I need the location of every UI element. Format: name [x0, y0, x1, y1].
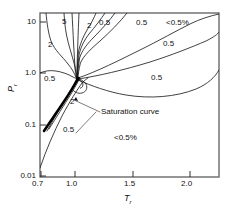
x-axis-title: Tr: [124, 194, 132, 205]
y-axis-title: Pr: [6, 92, 14, 104]
region-label-less-than-05-lower: <0.5%: [114, 134, 137, 142]
y-tick-label-1: 1.0: [6, 69, 36, 77]
y-axis-title-sub: r: [12, 84, 18, 86]
x-tick-label-1.0: 1.0: [66, 180, 77, 188]
contour-label-05-upper-b: 0.5: [136, 19, 147, 27]
chart-figure: 10 1.0 0.1 0.01 0.7 1.0 1.5 2.0 Pr Tr 5 …: [0, 0, 237, 213]
x-axis-title-sub: r: [130, 199, 132, 205]
x-tick-label-0.7: 0.7: [32, 180, 43, 188]
y-axis-title-main: P: [6, 86, 16, 92]
contour-label-05-right-lower: 0.5: [151, 74, 162, 82]
y-tick-label-0.1: 0.1: [6, 121, 36, 129]
contour-label-2-upper: 2: [87, 22, 91, 30]
region-label-less-than-05-upper: <0.5%: [166, 19, 189, 27]
y-tick-label-0.01: 0.01: [1, 172, 36, 180]
contour-label-2-liquid: 2: [70, 98, 74, 106]
callout-label-saturation-curve: Saturation curve: [101, 108, 159, 116]
y-tick-label-10: 10: [6, 18, 36, 26]
contour-label-05-left: 0.5: [44, 75, 55, 83]
contour-label-05-right-upper: 0.5: [163, 40, 174, 48]
contour-label-05-liquid: 0.5: [63, 126, 74, 134]
contour-label-5: 5: [62, 18, 66, 26]
contour-label-2-left: 2: [48, 41, 52, 49]
contour-label-05-upper-a: 0.5: [99, 19, 110, 27]
x-tick-label-2.0: 2.0: [181, 180, 192, 188]
x-tick-label-1.5: 1.5: [124, 180, 135, 188]
